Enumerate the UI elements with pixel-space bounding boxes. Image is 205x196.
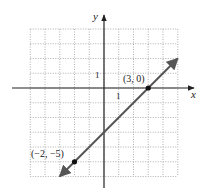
coordinate-plane: x y 1 1 (3, 0) (−2, −5)	[0, 0, 205, 196]
point-a-label: (3, 0)	[123, 73, 145, 85]
line-y-equals-x-minus-3	[60, 59, 178, 177]
point-neg2-neg5	[72, 159, 77, 164]
y-axis-label: y	[92, 10, 98, 22]
y-unit-label: 1	[95, 70, 100, 80]
x-axis-label: x	[190, 88, 196, 100]
x-unit-label: 1	[116, 91, 121, 101]
point-b-label: (−2, −5)	[31, 148, 64, 160]
point-3-0	[146, 85, 151, 90]
